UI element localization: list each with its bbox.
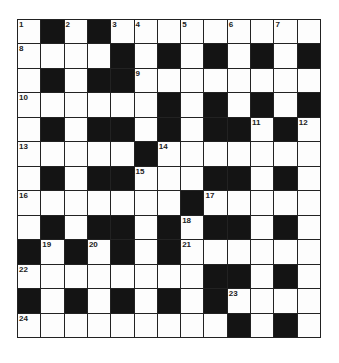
crossword-cell[interactable] (65, 44, 87, 67)
crossword-cell[interactable] (251, 167, 273, 190)
crossword-cell[interactable] (181, 118, 203, 141)
crossword-cell[interactable] (251, 314, 273, 337)
crossword-cell[interactable]: 23 (228, 289, 250, 312)
crossword-cell[interactable] (88, 44, 110, 67)
crossword-cell[interactable]: 11 (251, 118, 273, 141)
crossword-cell[interactable]: 24 (18, 314, 40, 337)
crossword-cell[interactable]: 7 (274, 20, 296, 43)
crossword-cell[interactable] (41, 265, 63, 288)
crossword-cell[interactable] (41, 191, 63, 214)
crossword-cell[interactable] (41, 44, 63, 67)
crossword-cell[interactable]: 15 (135, 167, 157, 190)
crossword-cell[interactable]: 14 (158, 142, 180, 165)
crossword-cell[interactable] (18, 167, 40, 190)
crossword-cell[interactable]: 9 (135, 69, 157, 92)
crossword-cell[interactable] (298, 69, 320, 92)
crossword-cell[interactable] (135, 118, 157, 141)
crossword-cell[interactable] (274, 44, 296, 67)
crossword-cell[interactable] (135, 289, 157, 312)
crossword-cell[interactable] (204, 142, 226, 165)
crossword-cell[interactable]: 13 (18, 142, 40, 165)
crossword-cell[interactable] (111, 93, 133, 116)
crossword-cell[interactable] (18, 118, 40, 141)
crossword-cell[interactable]: 16 (18, 191, 40, 214)
crossword-cell[interactable]: 4 (135, 20, 157, 43)
crossword-cell[interactable] (251, 265, 273, 288)
crossword-cell[interactable] (135, 216, 157, 239)
crossword-cell[interactable] (88, 191, 110, 214)
crossword-cell[interactable] (88, 93, 110, 116)
crossword-cell[interactable] (298, 265, 320, 288)
crossword-cell[interactable] (65, 118, 87, 141)
crossword-cell[interactable] (298, 314, 320, 337)
crossword-cell[interactable] (298, 240, 320, 263)
crossword-cell[interactable] (65, 314, 87, 337)
crossword-cell[interactable] (158, 69, 180, 92)
crossword-cell[interactable] (135, 265, 157, 288)
crossword-cell[interactable] (41, 93, 63, 116)
crossword-cell[interactable] (274, 142, 296, 165)
crossword-cell[interactable] (158, 191, 180, 214)
crossword-cell[interactable] (158, 167, 180, 190)
crossword-cell[interactable]: 20 (88, 240, 110, 263)
crossword-cell[interactable] (251, 240, 273, 263)
crossword-cell[interactable] (41, 289, 63, 312)
crossword-cell[interactable] (135, 44, 157, 67)
crossword-cell[interactable] (41, 314, 63, 337)
crossword-cell[interactable] (65, 93, 87, 116)
crossword-cell[interactable]: 21 (181, 240, 203, 263)
crossword-cell[interactable]: 19 (41, 240, 63, 263)
crossword-cell[interactable] (251, 191, 273, 214)
crossword-cell[interactable]: 12 (298, 118, 320, 141)
crossword-cell[interactable] (181, 314, 203, 337)
crossword-cell[interactable]: 18 (181, 216, 203, 239)
crossword-cell[interactable] (181, 142, 203, 165)
crossword-cell[interactable] (65, 69, 87, 92)
crossword-cell[interactable] (228, 44, 250, 67)
crossword-cell[interactable] (65, 142, 87, 165)
crossword-cell[interactable]: 1 (18, 20, 40, 43)
crossword-cell[interactable] (204, 314, 226, 337)
crossword-cell[interactable] (18, 216, 40, 239)
crossword-cell[interactable]: 5 (181, 20, 203, 43)
crossword-cell[interactable] (204, 20, 226, 43)
crossword-cell[interactable] (18, 69, 40, 92)
crossword-cell[interactable] (41, 142, 63, 165)
crossword-cell[interactable] (111, 142, 133, 165)
crossword-cell[interactable] (228, 142, 250, 165)
crossword-cell[interactable] (135, 240, 157, 263)
crossword-cell[interactable]: 10 (18, 93, 40, 116)
crossword-cell[interactable]: 6 (228, 20, 250, 43)
crossword-cell[interactable] (181, 167, 203, 190)
crossword-cell[interactable] (65, 167, 87, 190)
crossword-cell[interactable]: 2 (65, 20, 87, 43)
crossword-cell[interactable]: 17 (204, 191, 226, 214)
crossword-cell[interactable] (88, 314, 110, 337)
crossword-cell[interactable] (228, 69, 250, 92)
crossword-cell[interactable] (274, 289, 296, 312)
crossword-cell[interactable]: 22 (18, 265, 40, 288)
crossword-cell[interactable] (298, 191, 320, 214)
crossword-cell[interactable] (88, 289, 110, 312)
crossword-cell[interactable]: 3 (111, 20, 133, 43)
crossword-cell[interactable] (228, 191, 250, 214)
crossword-cell[interactable] (181, 69, 203, 92)
crossword-cell[interactable] (274, 240, 296, 263)
crossword-cell[interactable] (135, 191, 157, 214)
crossword-cell[interactable] (251, 20, 273, 43)
crossword-cell[interactable] (65, 265, 87, 288)
crossword-cell[interactable] (298, 167, 320, 190)
crossword-cell[interactable] (298, 142, 320, 165)
crossword-cell[interactable] (204, 69, 226, 92)
crossword-cell[interactable] (65, 216, 87, 239)
crossword-cell[interactable]: 8 (18, 44, 40, 67)
crossword-cell[interactable] (298, 289, 320, 312)
crossword-cell[interactable] (135, 314, 157, 337)
crossword-cell[interactable] (135, 93, 157, 116)
crossword-cell[interactable] (274, 93, 296, 116)
crossword-cell[interactable] (204, 240, 226, 263)
crossword-cell[interactable] (251, 289, 273, 312)
crossword-cell[interactable] (251, 142, 273, 165)
crossword-cell[interactable] (181, 93, 203, 116)
crossword-cell[interactable] (251, 69, 273, 92)
